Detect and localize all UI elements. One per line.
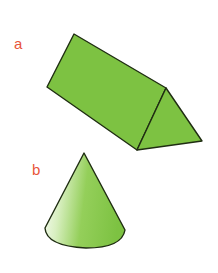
triangular-prism	[47, 34, 202, 150]
shapes-canvas	[0, 0, 218, 273]
cone-surface	[45, 153, 125, 248]
cone	[45, 153, 125, 248]
